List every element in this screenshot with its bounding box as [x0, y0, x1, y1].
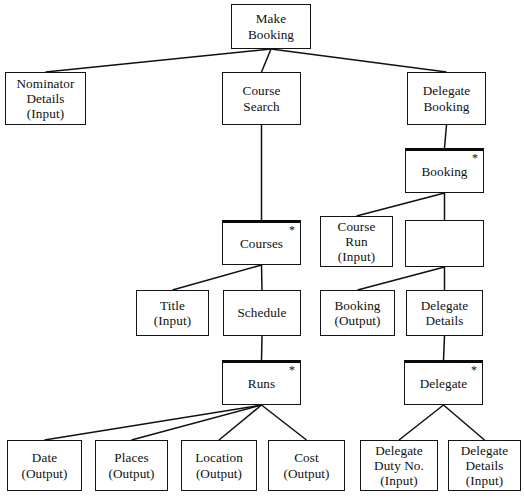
iteration-marker-icon-booking: *: [472, 152, 478, 164]
node-courses[interactable]: Courses*: [222, 220, 301, 265]
edge-make-booking-to-nominator-details: [46, 49, 272, 72]
node-label-location: Location (Output): [192, 450, 246, 480]
node-label-delegate-details-2: Delegate Details (Input): [458, 443, 512, 488]
node-course-search[interactable]: Course Search: [222, 72, 301, 125]
edge-delegate-booking-to-booking: [445, 125, 447, 148]
node-label-delegate: Delegate: [417, 376, 471, 391]
node-label-cost: Cost (Output): [280, 450, 332, 480]
iteration-marker-icon-runs: *: [289, 364, 295, 376]
edge-courses-to-schedule: [262, 265, 263, 290]
iteration-marker-icon-delegate: *: [471, 364, 477, 376]
node-booking-output[interactable]: Booking (Output): [320, 290, 395, 336]
node-delegate-duty-no[interactable]: Delegate Duty No. (Input): [360, 440, 438, 491]
node-cost[interactable]: Cost (Output): [268, 440, 345, 491]
node-schedule[interactable]: Schedule: [223, 290, 301, 336]
edge-runs-to-cost: [262, 405, 307, 440]
node-runs[interactable]: Runs*: [222, 360, 301, 405]
node-label-title: Title (Input): [151, 298, 194, 328]
node-title[interactable]: Title (Input): [136, 290, 209, 336]
node-delegate[interactable]: Delegate*: [404, 360, 483, 405]
edge-runs-to-places: [132, 405, 262, 440]
node-label-nominator-details: Nominator Details (Input): [13, 76, 77, 121]
node-label-make-booking: Make Booking: [245, 11, 297, 41]
node-label-schedule: Schedule: [234, 305, 289, 320]
node-make-booking[interactable]: Make Booking: [231, 4, 311, 49]
edge-make-booking-to-course-search: [262, 49, 272, 72]
node-label-delegate-details: Delegate Details: [418, 298, 472, 328]
edge-delegate-to-delegate-details-2: [444, 405, 485, 440]
edge-booking-to-course-run: [357, 193, 445, 216]
node-label-date: Date (Output): [18, 450, 70, 480]
edge-booking-empty-to-booking-output: [358, 267, 445, 290]
edge-runs-to-location: [219, 405, 262, 440]
node-places[interactable]: Places (Output): [95, 440, 168, 491]
node-nominator-details[interactable]: Nominator Details (Input): [5, 72, 86, 125]
node-label-courses: Courses: [237, 236, 286, 251]
node-label-booking: Booking: [418, 164, 470, 179]
edge-delegate-details-to-delegate: [444, 336, 445, 360]
node-booking[interactable]: Booking*: [405, 148, 484, 193]
node-label-course-search: Course Search: [240, 83, 284, 113]
edge-courses-to-title: [173, 265, 262, 290]
node-location[interactable]: Location (Output): [181, 440, 257, 491]
edge-schedule-to-runs: [262, 336, 263, 360]
edge-make-booking-to-delegate-booking: [271, 49, 447, 72]
edge-delegate-to-delegate-duty-no: [399, 405, 444, 440]
edge-runs-to-date: [45, 405, 262, 440]
node-label-places: Places (Output): [105, 450, 157, 480]
node-label-booking-output: Booking (Output): [331, 298, 383, 328]
iteration-marker-icon-courses: *: [289, 224, 295, 236]
node-delegate-details[interactable]: Delegate Details: [406, 290, 483, 336]
node-label-runs: Runs: [245, 376, 279, 391]
node-label-delegate-duty-no: Delegate Duty No. (Input): [371, 443, 427, 488]
structure-diagram: Make BookingNominator Details (Input)Cou…: [0, 0, 524, 500]
node-label-course-run: Course Run (Input): [335, 219, 379, 264]
node-label-delegate-booking: Delegate Booking: [420, 83, 474, 113]
node-course-run[interactable]: Course Run (Input): [320, 216, 393, 267]
node-booking-empty[interactable]: [405, 220, 484, 267]
node-delegate-details-2[interactable]: Delegate Details (Input): [448, 440, 521, 491]
node-delegate-booking[interactable]: Delegate Booking: [407, 72, 486, 125]
node-date[interactable]: Date (Output): [7, 440, 82, 491]
